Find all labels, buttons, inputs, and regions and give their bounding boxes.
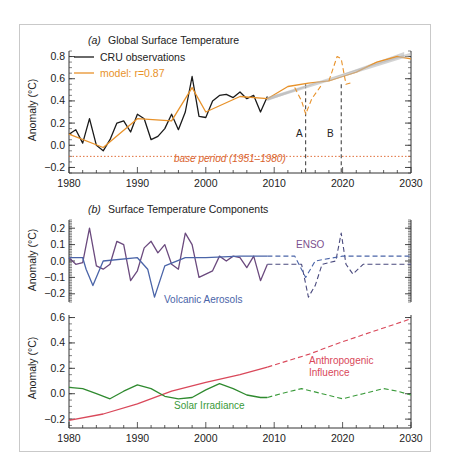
x-tick-label: 1990: [126, 177, 150, 189]
panel-a-title-text: Global Surface Temperature: [108, 34, 239, 46]
y-tick-label: 0.2: [50, 222, 65, 234]
x-tick-label: 2030: [399, 432, 423, 444]
x-tick-label: 2030: [399, 177, 423, 189]
series-enso-projection-: [267, 233, 411, 297]
panel-b-upper-ylabel: Anomaly (°C): [26, 229, 38, 292]
series-model-projection-shaded-trend-: [267, 54, 411, 98]
y-tick-label: 0.0: [50, 139, 65, 151]
series-volcanic-aerosols-projection-: [267, 256, 411, 277]
y-tick-label: 0.1: [50, 238, 65, 250]
y-tick-label: 0.4: [50, 94, 65, 106]
y-tick-label: −0.2: [44, 287, 65, 299]
series-volcanic-aerosols: [69, 256, 267, 297]
panel-b-lower-ylabel: Anomaly (°C): [26, 337, 38, 400]
anthropogenic-label: Anthropogenic: [309, 355, 374, 366]
y-tick-label: 0.6: [50, 311, 65, 323]
chart-plot-area: 198019902000201020202030−0.20.00.20.40.6…: [44, 50, 423, 444]
y-tick-label: 0.2: [50, 117, 65, 129]
solar-label: Solar Irradiance: [174, 400, 245, 411]
y-tick-label: 0.8: [50, 50, 65, 62]
annotation-b: B: [327, 128, 334, 139]
y-tick-label: 0.4: [50, 336, 65, 348]
legend-label-cru: CRU observations: [100, 51, 185, 63]
y-tick-label: −0.2: [44, 161, 65, 173]
x-tick-label: 2010: [263, 177, 287, 189]
x-tick-label: 1980: [57, 432, 81, 444]
x-tick-label: 2020: [331, 432, 355, 444]
y-tick-label: −0.2: [44, 413, 65, 425]
y-tick-label: 0.6: [50, 72, 65, 84]
y-tick-label: 0.0: [50, 387, 65, 399]
figure-svg: (a) Global Surface Temperature (b) Surfa…: [0, 0, 455, 475]
panel-b-title: Surface Temperature Components: [108, 203, 268, 215]
y-tick-label: 0.2: [50, 362, 65, 374]
series-anthropogenic-influence: [69, 367, 267, 420]
y-tick-label: 0.0: [50, 255, 65, 267]
x-tick-label: 2010: [263, 432, 287, 444]
influence-label: Influence: [309, 367, 350, 378]
x-tick-label: 2000: [194, 177, 218, 189]
x-tick-label: 2000: [194, 432, 218, 444]
enso-label: ENSO: [296, 239, 325, 250]
x-tick-label: 1980: [57, 177, 81, 189]
volcanic-label: Volcanic Aerosols: [164, 294, 242, 305]
annotation-a: A: [296, 128, 303, 139]
x-tick-label: 2020: [331, 177, 355, 189]
panel-a-title: (a): [88, 34, 101, 46]
panel-b-title-prefix: (b): [88, 203, 101, 215]
series-solar-irradiance: [69, 384, 267, 399]
series-solar-irradiance-projection-: [267, 389, 411, 399]
y-tick-label: −0.1: [44, 271, 65, 283]
legend-label-model: model: r=0.87: [100, 67, 165, 79]
base-period-label: base period (1951–1980): [174, 153, 286, 164]
panel-a-ylabel: Anomaly (°C): [26, 79, 38, 142]
x-tick-label: 1990: [126, 432, 150, 444]
series-cru-observations: [69, 77, 267, 151]
